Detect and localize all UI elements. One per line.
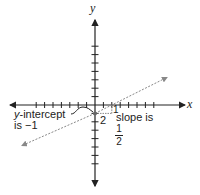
coordinate-plane [0, 0, 200, 195]
y-intercept-point [93, 111, 97, 115]
slope-text: slope is [116, 112, 153, 123]
slope-fraction-numerator: 1 [116, 123, 122, 134]
run-label: 2 [100, 115, 106, 126]
y-axis-label: y [90, 3, 95, 14]
intercept-label-line2: is −1 [14, 120, 38, 131]
slope-fraction-denominator: 2 [116, 136, 122, 147]
slope-fraction: 1 2 [115, 124, 123, 147]
intercept-leader-curve [71, 107, 93, 114]
x-axis-label: x [187, 99, 192, 110]
y-axis [92, 20, 99, 186]
